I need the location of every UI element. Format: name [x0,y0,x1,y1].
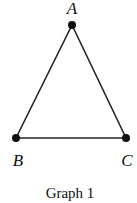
vertex-label-b: B [13,151,24,170]
vertex-label-a: A [66,0,78,18]
edges [16,25,126,138]
graph-diagram: A B C Graph 1 [0,0,137,203]
edge-a-c [72,25,126,138]
vertex-label-c: C [121,151,133,170]
edge-a-b [16,25,72,138]
vertex-b [12,134,20,142]
graph-caption: Graph 1 [46,185,95,201]
vertex-a [68,21,76,29]
vertices [12,21,130,142]
vertex-c [122,134,130,142]
